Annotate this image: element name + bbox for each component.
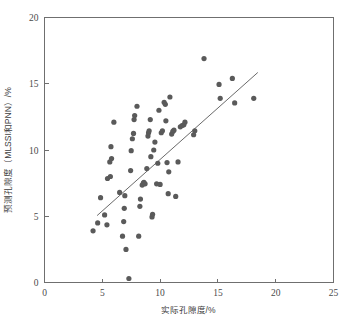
y-tick-label: 0 bbox=[34, 278, 39, 288]
data-point bbox=[164, 160, 169, 165]
data-point bbox=[147, 128, 152, 133]
y-tick-label: 5 bbox=[34, 212, 39, 222]
data-point bbox=[131, 131, 136, 136]
scatter-chart: 0510152025 05101520 实际孔隙度/% 预测孔隙度（MLSSI和… bbox=[0, 0, 348, 322]
x-axis-ticks bbox=[45, 279, 334, 283]
data-point bbox=[175, 159, 180, 164]
y-tick-label: 15 bbox=[29, 79, 39, 89]
data-point bbox=[192, 128, 197, 133]
x-tick-label: 0 bbox=[42, 288, 47, 298]
data-point bbox=[148, 154, 153, 159]
data-point bbox=[251, 96, 256, 101]
data-point bbox=[151, 147, 156, 152]
data-point bbox=[123, 247, 128, 252]
data-point bbox=[150, 212, 155, 217]
x-axis-tick-labels: 0510152025 bbox=[42, 288, 338, 298]
data-point bbox=[108, 144, 113, 149]
y-tick-label: 20 bbox=[29, 13, 39, 23]
data-point bbox=[104, 222, 109, 227]
data-point bbox=[98, 195, 103, 200]
data-point bbox=[182, 120, 187, 125]
y-axis-title: 预测孔隙度（MLSSI和PNN）/% bbox=[3, 87, 13, 213]
data-point bbox=[120, 234, 125, 239]
data-point bbox=[166, 169, 171, 174]
x-tick-label: 5 bbox=[100, 288, 105, 298]
data-point bbox=[173, 194, 178, 199]
x-tick-label: 10 bbox=[155, 288, 165, 298]
chart-canvas: 0510152025 05101520 实际孔隙度/% 预测孔隙度（MLSSI和… bbox=[0, 0, 348, 322]
data-point bbox=[144, 166, 149, 171]
data-point bbox=[122, 206, 127, 211]
data-point bbox=[117, 190, 122, 195]
x-tick-label: 15 bbox=[213, 288, 223, 298]
data-point bbox=[158, 182, 163, 187]
data-point bbox=[132, 113, 137, 118]
x-axis-title: 实际孔隙度/% bbox=[161, 305, 216, 315]
data-point bbox=[128, 168, 133, 173]
data-point bbox=[95, 220, 100, 225]
data-point bbox=[90, 228, 95, 233]
data-point bbox=[138, 196, 143, 201]
data-point bbox=[166, 191, 171, 196]
data-point bbox=[163, 102, 168, 107]
data-point bbox=[232, 100, 237, 105]
data-point bbox=[171, 128, 176, 133]
data-point bbox=[109, 156, 114, 161]
data-point bbox=[126, 276, 131, 281]
data-point bbox=[152, 139, 157, 144]
data-point bbox=[167, 94, 172, 99]
data-point bbox=[108, 174, 113, 179]
x-tick-label: 20 bbox=[271, 288, 281, 298]
plot-border bbox=[45, 18, 334, 283]
data-point bbox=[122, 193, 127, 198]
data-point bbox=[156, 108, 161, 113]
data-points bbox=[90, 56, 256, 281]
x-tick-label: 25 bbox=[329, 288, 339, 298]
data-point bbox=[142, 181, 147, 186]
data-point bbox=[130, 136, 135, 141]
y-axis-ticks bbox=[45, 18, 49, 283]
data-point bbox=[102, 212, 107, 217]
data-point bbox=[216, 82, 221, 87]
data-point bbox=[218, 96, 223, 101]
data-point bbox=[160, 128, 165, 133]
data-point bbox=[136, 234, 141, 239]
data-point bbox=[111, 120, 116, 125]
data-point bbox=[201, 56, 206, 61]
data-point bbox=[163, 118, 168, 123]
y-axis-tick-labels: 05101520 bbox=[29, 13, 39, 288]
data-point bbox=[155, 161, 160, 166]
plot-frame bbox=[45, 18, 334, 283]
data-point bbox=[134, 104, 139, 109]
data-point bbox=[121, 219, 126, 224]
data-point bbox=[148, 117, 153, 122]
data-point bbox=[230, 76, 235, 81]
data-point bbox=[137, 204, 142, 209]
data-point bbox=[129, 148, 134, 153]
y-tick-label: 10 bbox=[29, 146, 39, 156]
